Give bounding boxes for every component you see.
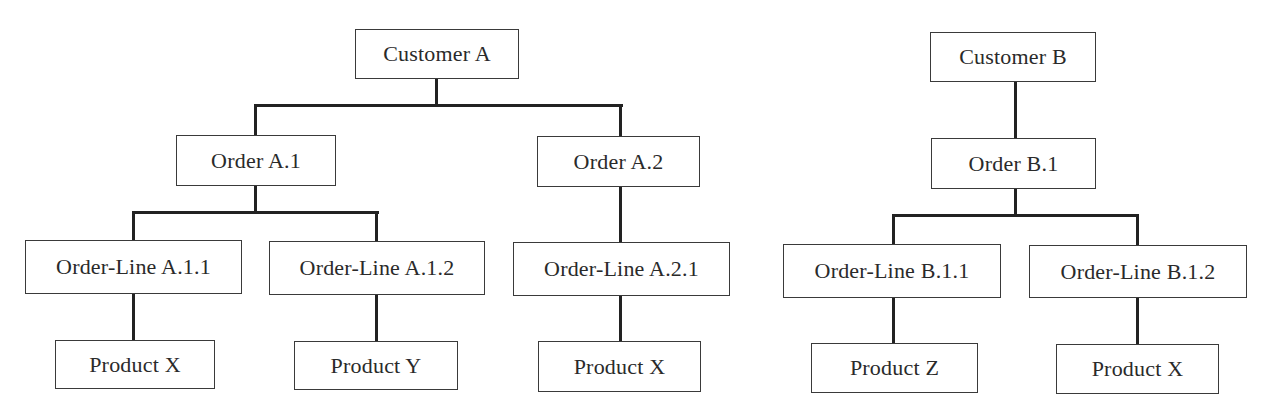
connector-customer-a-down	[435, 79, 438, 106]
node-orderline-a21: Order-Line A.2.1	[513, 242, 730, 296]
connector-orderline-a21-to-product	[619, 296, 622, 342]
node-customer-b: Customer B	[930, 32, 1096, 82]
connector-to-orderline-b12	[1136, 214, 1139, 246]
node-order-b1: Order B.1	[931, 138, 1096, 189]
node-product-b12: Product X	[1056, 344, 1219, 394]
connector-orderline-b11-to-product	[892, 298, 895, 344]
hierarchy-diagram: Customer A Order A.1 Order A.2 Order-Lin…	[0, 0, 1264, 413]
connector-order-b1-down	[1014, 189, 1017, 216]
connector-order-a1-branch	[132, 211, 379, 214]
connector-customer-b-to-order-b1	[1014, 82, 1017, 139]
node-orderline-b11: Order-Line B.1.1	[783, 244, 1001, 298]
node-orderline-a11: Order-Line A.1.1	[25, 240, 242, 294]
connector-to-orderline-b11	[892, 214, 895, 245]
connector-orderline-b12-to-product	[1136, 298, 1139, 345]
node-orderline-b12: Order-Line B.1.2	[1029, 245, 1247, 298]
node-orderline-a12: Order-Line A.1.2	[269, 241, 485, 295]
node-product-a21: Product X	[538, 341, 701, 392]
node-order-a1: Order A.1	[176, 135, 336, 186]
connector-to-order-a2	[619, 104, 622, 137]
connector-to-order-a1	[254, 104, 257, 136]
node-order-a2: Order A.2	[537, 136, 700, 187]
connector-order-a1-down	[254, 186, 257, 213]
connector-orderline-a11-to-product	[132, 294, 135, 341]
connector-order-a2-to-orderline-a21	[619, 187, 622, 243]
connector-customer-a-branch	[254, 104, 623, 107]
connector-to-orderline-a12	[375, 211, 378, 242]
connector-to-orderline-a11	[132, 211, 135, 241]
node-product-a12: Product Y	[294, 341, 458, 390]
node-customer-a: Customer A	[355, 29, 519, 79]
node-product-a11: Product X	[55, 340, 215, 389]
connector-orderline-a12-to-product	[375, 295, 378, 342]
connector-order-b1-branch	[892, 214, 1139, 217]
node-product-b11: Product Z	[811, 343, 978, 393]
